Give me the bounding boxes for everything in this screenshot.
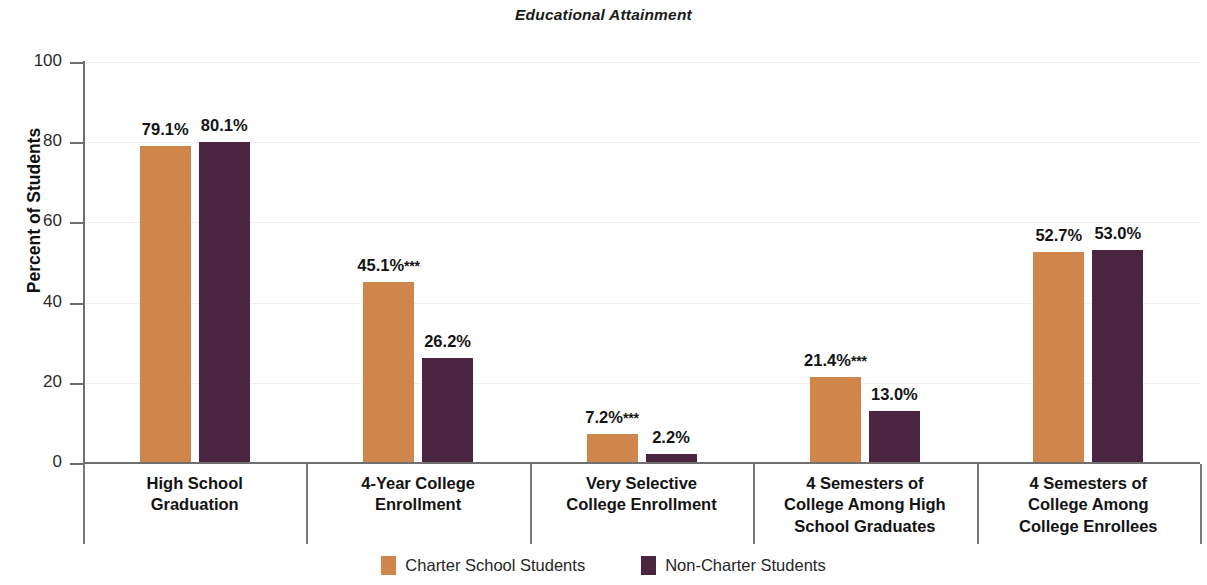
category-label-line: 4 Semesters of	[760, 473, 969, 494]
significance-stars: ***	[404, 258, 420, 274]
bar-value-label: 7.2%***	[585, 408, 638, 427]
category-separator	[977, 464, 979, 544]
bar	[422, 358, 473, 463]
y-tick-mark	[70, 303, 83, 305]
category-label-line: Enrollment	[313, 494, 522, 515]
gridline	[83, 222, 1200, 223]
bar-value-label: 45.1%***	[357, 256, 420, 275]
bar	[1033, 252, 1084, 463]
category-label-line: Graduation	[90, 494, 299, 515]
bar-value-label: 13.0%	[871, 385, 918, 404]
bar-value-label: 21.4%***	[804, 351, 867, 370]
bar	[140, 146, 191, 463]
bar-value-label: 79.1%	[142, 120, 189, 139]
category-separator-edge	[83, 464, 85, 544]
category-label: 4 Semesters ofCollege AmongCollege Enrol…	[984, 473, 1193, 537]
legend-swatch	[641, 556, 656, 575]
significance-stars: ***	[623, 410, 639, 426]
category-separator-edge	[1200, 464, 1202, 544]
y-tick-label: 100	[0, 51, 62, 71]
category-label: High SchoolGraduation	[90, 473, 299, 516]
category-label-line: High School	[90, 473, 299, 494]
bar-value-label: 80.1%	[201, 116, 248, 135]
y-tick-mark	[70, 222, 83, 224]
educational-attainment-bar-chart: Educational Attainment 79.1%80.1%45.1%**…	[0, 0, 1207, 585]
significance-stars: ***	[851, 353, 867, 369]
y-tick-label: 20	[0, 372, 62, 392]
chart-legend: Charter School StudentsNon-Charter Stude…	[0, 556, 1207, 575]
category-label: 4-Year CollegeEnrollment	[313, 473, 522, 516]
gridline	[83, 142, 1200, 143]
category-label-line: College Enrollment	[537, 494, 746, 515]
legend-label: Charter School Students	[405, 556, 585, 575]
bar-value-label: 52.7%	[1035, 226, 1082, 245]
legend-label: Non-Charter Students	[665, 556, 826, 575]
y-tick-mark	[70, 142, 83, 144]
bar	[199, 142, 250, 463]
chart-title: Educational Attainment	[0, 6, 1207, 24]
legend-swatch	[381, 556, 396, 575]
x-axis-line	[83, 462, 1200, 464]
y-tick-label: 0	[0, 452, 62, 472]
bar-value-label: 26.2%	[424, 332, 471, 351]
bar	[869, 411, 920, 463]
legend-item[interactable]: Charter School Students	[381, 556, 585, 575]
category-label-line: College Enrollees	[984, 516, 1193, 537]
category-label-line: 4-Year College	[313, 473, 522, 494]
category-label-line: Very Selective	[537, 473, 746, 494]
plot-area: 79.1%80.1%45.1%***26.2%7.2%***2.2%21.4%*…	[83, 62, 1200, 463]
y-axis-line	[83, 61, 85, 464]
y-tick-mark	[70, 62, 83, 64]
category-separator	[306, 464, 308, 544]
y-tick-mark	[70, 383, 83, 385]
category-label-line: School Graduates	[760, 516, 969, 537]
bar-value-label: 53.0%	[1094, 224, 1141, 243]
category-separator	[753, 464, 755, 544]
bar	[1092, 250, 1143, 463]
bar	[587, 434, 638, 463]
bar	[810, 377, 861, 463]
category-label-line: 4 Semesters of	[984, 473, 1193, 494]
category-label: 4 Semesters ofCollege Among HighSchool G…	[760, 473, 969, 537]
y-axis-title: Percent of Students	[24, 81, 45, 341]
category-label-line: College Among	[984, 494, 1193, 515]
bar-value-label: 2.2%	[652, 428, 690, 447]
y-tick-mark	[70, 463, 83, 465]
bar	[363, 282, 414, 463]
category-label-line: College Among High	[760, 494, 969, 515]
legend-item[interactable]: Non-Charter Students	[641, 556, 826, 575]
category-label: Very SelectiveCollege Enrollment	[537, 473, 746, 516]
gridline	[83, 62, 1200, 63]
category-separator	[530, 464, 532, 544]
